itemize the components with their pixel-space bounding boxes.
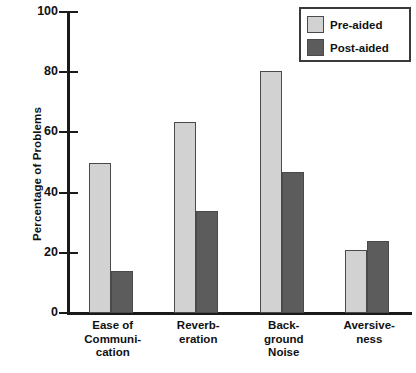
x-axis-label-line: eration bbox=[156, 333, 242, 347]
y-tick-label: 60 bbox=[24, 125, 58, 138]
y-tick-mark bbox=[59, 252, 78, 254]
y-tick-label: 100 bbox=[24, 5, 58, 18]
bar-chart: Percentage of Problems 020406080100 Ease… bbox=[0, 0, 416, 373]
y-tick-mark bbox=[59, 192, 78, 194]
bar-post-aided bbox=[367, 241, 389, 313]
bar-group bbox=[174, 12, 218, 313]
legend-item-pre-aided: Pre-aided bbox=[307, 14, 405, 35]
legend-swatch-post-aided-icon bbox=[307, 39, 324, 56]
y-tick-mark bbox=[59, 312, 78, 314]
x-axis-label-line: cation bbox=[70, 346, 156, 360]
bar-pre-aided bbox=[174, 122, 196, 313]
x-axis-label-line: ground bbox=[241, 333, 327, 347]
bar-post-aided bbox=[111, 271, 133, 313]
y-axis-tick-labels: 020406080100 bbox=[22, 0, 58, 373]
x-axis-label: Reverb-eration bbox=[156, 319, 242, 346]
x-axis-label-line: ness bbox=[327, 333, 413, 347]
x-axis-label-line: Back- bbox=[241, 319, 327, 333]
bar-pre-aided bbox=[260, 71, 282, 313]
x-axis-label-line: Aversive- bbox=[327, 319, 413, 333]
bar-pre-aided bbox=[345, 250, 367, 313]
x-axis-label-line: Reverb- bbox=[156, 319, 242, 333]
x-axis-label-line: Ease of bbox=[70, 319, 156, 333]
bar-pre-aided bbox=[89, 163, 111, 314]
y-tick-mark bbox=[59, 11, 78, 13]
bar-post-aided bbox=[196, 211, 218, 313]
bar-group bbox=[260, 12, 304, 313]
y-tick-label: 40 bbox=[24, 186, 58, 199]
x-axis-category-labels: Ease ofCommuni-cationReverb-erationBack-… bbox=[70, 319, 412, 373]
legend-label-pre-aided: Pre-aided bbox=[330, 19, 382, 31]
legend-item-post-aided: Post-aided bbox=[307, 37, 405, 58]
x-axis-label: Aversive-ness bbox=[327, 319, 413, 346]
bar-post-aided bbox=[282, 172, 304, 313]
y-tick-mark bbox=[59, 131, 78, 133]
y-tick-label: 0 bbox=[24, 306, 58, 319]
bar-group bbox=[89, 12, 133, 313]
x-axis-label-line: Noise bbox=[241, 346, 327, 360]
y-tick-label: 20 bbox=[24, 246, 58, 259]
x-axis-label: Ease ofCommuni-cation bbox=[70, 319, 156, 360]
chart-legend: Pre-aided Post-aided bbox=[299, 7, 411, 62]
x-axis-label: Back-groundNoise bbox=[241, 319, 327, 360]
y-tick-mark bbox=[59, 71, 78, 73]
x-axis-label-line: Communi- bbox=[70, 333, 156, 347]
legend-swatch-pre-aided-icon bbox=[307, 16, 324, 33]
legend-label-post-aided: Post-aided bbox=[330, 42, 389, 54]
y-tick-label: 80 bbox=[24, 65, 58, 78]
